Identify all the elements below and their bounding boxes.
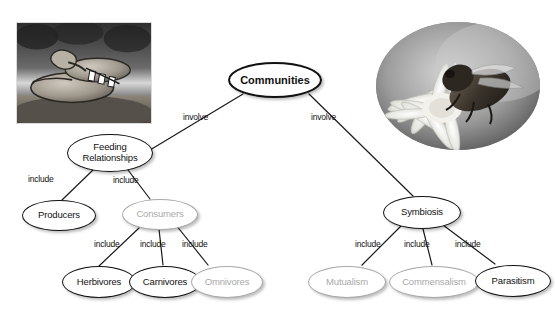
node-label-omnivores: Omnivores — [203, 277, 252, 288]
feeding-line-2: Relationships — [80, 153, 139, 164]
edge-label-feeding-consumers: include — [113, 175, 139, 185]
bee-on-flower-photo — [376, 22, 540, 150]
edge-label-symbiosis-commensalism: include — [404, 239, 430, 249]
node-omnivores[interactable]: Omnivores — [191, 266, 263, 298]
edge-label-consumers-carnivores: include — [140, 239, 166, 249]
node-symbiosis[interactable]: Symbiosis — [383, 196, 461, 229]
node-label-symbiosis: Symbiosis — [399, 207, 445, 218]
edge-label-symbiosis-mutualism: include — [355, 239, 381, 249]
concept-map-canvas: Communities FeedingRelationships Symbios… — [0, 0, 555, 312]
node-label-mutualism: Mutualism — [324, 277, 370, 288]
edge-label-feeding-producers: include — [28, 174, 54, 184]
node-communities[interactable]: Communities — [228, 62, 322, 98]
edge-label-symbiosis-parasitism: include — [455, 239, 481, 249]
edge-label-communities-feeding: involve — [183, 112, 208, 122]
node-label-communities: Communities — [238, 74, 312, 86]
node-label-producers: Producers — [36, 210, 82, 221]
rattlesnake-photo — [16, 22, 152, 124]
node-label-parasitism: Parasitism — [490, 276, 537, 287]
node-herbivores[interactable]: Herbivores — [62, 266, 136, 298]
node-producers[interactable]: Producers — [22, 200, 96, 231]
edge-label-consumers-herbivores: include — [94, 239, 120, 249]
node-label-herbivores: Herbivores — [75, 277, 123, 288]
edge-label-consumers-omnivores: include — [182, 239, 208, 249]
node-commensalism[interactable]: Commensalism — [389, 266, 479, 298]
node-label-commensalism: Commensalism — [400, 277, 468, 288]
node-mutualism[interactable]: Mutualism — [308, 266, 386, 298]
node-feeding-relationships[interactable]: FeedingRelationships — [67, 134, 153, 172]
node-label-consumers: Consumers — [134, 209, 185, 220]
node-consumers[interactable]: Consumers — [122, 199, 198, 230]
node-label-carnivores: Carnivores — [141, 277, 189, 288]
edge-label-communities-symbiosis: involve — [311, 112, 336, 122]
node-label-feeding-relationships: FeedingRelationships — [78, 142, 141, 163]
node-parasitism[interactable]: Parasitism — [475, 265, 551, 297]
